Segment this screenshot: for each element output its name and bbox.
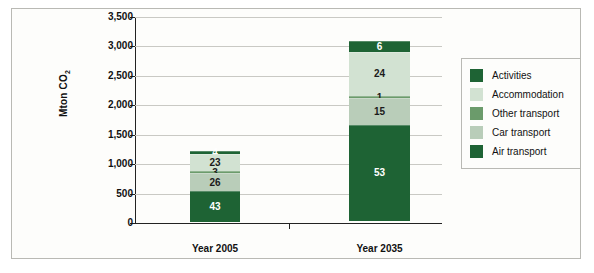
chart-figure: Mton CO2 05001,0001,5002,0002,5003,0003,…: [11, 8, 581, 259]
legend-item-other-transport[interactable]: Other transport: [470, 104, 574, 123]
bar-segment-value: 53: [374, 168, 385, 178]
bar-year-2035[interactable]: 62411553: [349, 41, 410, 223]
chart-legend: ActivitiesAccommodationOther transportCa…: [461, 58, 581, 169]
y-tick-label-1500: 1,500: [81, 129, 133, 140]
y-axis-title: Mton CO2: [58, 34, 71, 154]
legend-item-accommodation[interactable]: Accommodation: [470, 85, 574, 104]
legend-swatch-icon: [470, 126, 483, 139]
bar-segment-value: 26: [209, 178, 220, 188]
bar-segment-value: 15: [374, 107, 385, 117]
y-tick-label-1000: 1,000: [81, 158, 133, 169]
bar-year-2005[interactable]: 42332643: [190, 151, 240, 223]
legend-item-label: Accommodation: [492, 89, 564, 100]
legend-swatch-icon: [470, 107, 483, 120]
legend-item-air-transport[interactable]: Air transport: [470, 142, 574, 161]
bar-segment-air-transport: 53: [349, 125, 410, 221]
category-label-2: Year 2035: [335, 243, 425, 254]
legend-item-activities[interactable]: Activities: [470, 66, 574, 85]
y-tick-label-0: 0: [81, 217, 133, 228]
x-axis-center-tick: [289, 223, 290, 229]
legend-item-label: Other transport: [492, 108, 559, 119]
y-axis-title-subscript: 2: [64, 70, 71, 74]
legend-item-label: Activities: [492, 70, 531, 81]
bar-segment-activities: 6: [349, 41, 410, 52]
legend-swatch-icon: [470, 88, 483, 101]
category-label-1: Year 2005: [170, 243, 260, 254]
y-tick-label-3000: 3,000: [81, 40, 133, 51]
y-axis-title-text: Mton CO: [58, 74, 69, 117]
bar-segment-value: 24: [374, 69, 385, 79]
bar-segment-air-transport: 43: [190, 191, 240, 222]
bar-segment-value: 6: [377, 42, 383, 52]
legend-swatch-icon: [470, 69, 483, 82]
y-tick-label-500: 500: [81, 188, 133, 199]
y-tick-label-3500: 3,500: [81, 11, 133, 22]
plot-area: 05001,0001,5002,0002,5003,0003,500 42332…: [135, 17, 442, 223]
bar-segment-car-transport: 26: [190, 173, 240, 192]
legend-swatch-icon: [470, 145, 483, 158]
gridline-3500: [135, 17, 442, 18]
legend-item-label: Air transport: [492, 146, 546, 157]
y-tick-label-2000: 2,000: [81, 99, 133, 110]
bar-segment-car-transport: 15: [349, 98, 410, 125]
legend-item-car-transport[interactable]: Car transport: [470, 123, 574, 142]
y-tick-label-2500: 2,500: [81, 70, 133, 81]
legend-item-label: Car transport: [492, 127, 550, 138]
bar-segment-accommodation: 24: [349, 52, 410, 96]
bar-segment-value: 43: [209, 202, 220, 212]
